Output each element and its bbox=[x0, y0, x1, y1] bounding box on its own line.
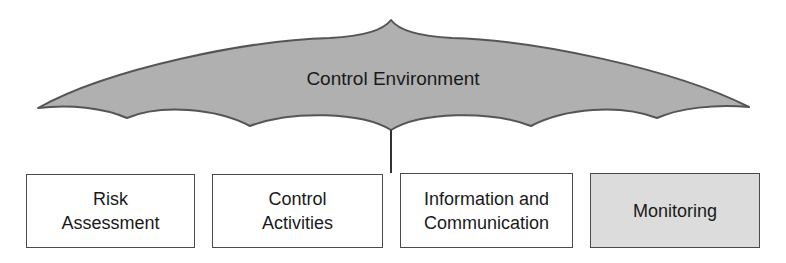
control-activities-box: Control Activities bbox=[212, 174, 383, 248]
box-label-line1: Monitoring bbox=[633, 199, 717, 223]
box-label-line2: Communication bbox=[424, 211, 549, 235]
box-label-line1: Control bbox=[262, 187, 333, 211]
information-communication-box: Information and Communication bbox=[400, 173, 573, 248]
risk-assessment-box: Risk Assessment bbox=[26, 174, 195, 248]
control-environment-label: Control Environment bbox=[0, 68, 786, 90]
coso-umbrella-diagram: Control Environment Risk Assessment Cont… bbox=[0, 0, 786, 263]
box-label-line2: Assessment bbox=[61, 211, 159, 235]
box-label-line1: Information and bbox=[424, 187, 549, 211]
box-label-line2: Activities bbox=[262, 211, 333, 235]
monitoring-box: Monitoring bbox=[590, 173, 760, 248]
box-label-line1: Risk bbox=[61, 187, 159, 211]
